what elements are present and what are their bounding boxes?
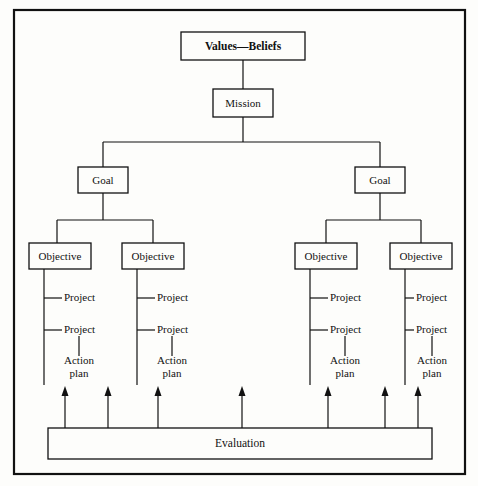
node-values-beliefs[interactable]: Values—Beliefs bbox=[181, 32, 305, 60]
node-objective-4[interactable]: Objective bbox=[390, 243, 452, 269]
branch-4-action-plan-label-line1: Action bbox=[417, 354, 447, 366]
page-border bbox=[14, 10, 465, 474]
diagram-canvas: Values—Beliefs Mission Goal Goal bbox=[0, 0, 478, 486]
strategic-planning-hierarchy-diagram: Values—Beliefs Mission Goal Goal bbox=[0, 0, 478, 486]
objective-3-label: Objective bbox=[305, 250, 348, 262]
objective-1-label: Objective bbox=[39, 250, 82, 262]
branch-3-action-plan-label-line1: Action bbox=[330, 354, 360, 366]
branch-3: Project Project Action plan bbox=[310, 269, 361, 385]
node-goal-2[interactable]: Goal bbox=[355, 167, 405, 193]
feedback-arrow-5 bbox=[325, 386, 332, 428]
branch-2-action-plan-label-line1: Action bbox=[157, 354, 187, 366]
branch-2-project-1-label: Project bbox=[157, 291, 188, 303]
node-objective-2[interactable]: Objective bbox=[122, 243, 184, 269]
feedback-arrow-7 bbox=[415, 386, 422, 428]
goal-2-label: Goal bbox=[369, 174, 390, 186]
feedback-arrow-1 bbox=[62, 386, 69, 428]
objective-4-label: Objective bbox=[400, 250, 443, 262]
objective-2-label: Objective bbox=[132, 250, 175, 262]
branch-1-action-plan-label-line2: plan bbox=[70, 367, 89, 379]
branch-2-project-2-label: Project bbox=[157, 323, 188, 335]
node-goal-1[interactable]: Goal bbox=[78, 167, 128, 193]
branch-4-action-plan-label-line2: plan bbox=[423, 367, 442, 379]
branch-3-action-plan-label-line2: plan bbox=[336, 367, 355, 379]
branch-3-project-1-label: Project bbox=[330, 291, 361, 303]
feedback-arrow-2 bbox=[105, 386, 112, 428]
node-objective-1[interactable]: Objective bbox=[29, 243, 91, 269]
branch-3-project-2-label: Project bbox=[330, 323, 361, 335]
branch-1-action-plan-label-line1: Action bbox=[64, 354, 94, 366]
branch-4-project-2-label: Project bbox=[416, 323, 447, 335]
node-evaluation[interactable]: Evaluation bbox=[48, 428, 432, 459]
mission-label: Mission bbox=[225, 97, 261, 109]
evaluation-label: Evaluation bbox=[215, 437, 265, 449]
branch-1: Project Project Action plan bbox=[44, 269, 95, 385]
feedback-arrow-6 bbox=[382, 386, 389, 428]
feedback-arrow-4 bbox=[239, 386, 246, 428]
feedback-arrows bbox=[62, 386, 422, 428]
values-beliefs-label: Values—Beliefs bbox=[205, 40, 282, 52]
branch-2: Project Project Action plan bbox=[137, 269, 188, 385]
branch-4-project-1-label: Project bbox=[416, 291, 447, 303]
branch-1-project-2-label: Project bbox=[64, 323, 95, 335]
goal-1-label: Goal bbox=[92, 174, 113, 186]
node-mission[interactable]: Mission bbox=[213, 89, 273, 117]
feedback-arrow-3 bbox=[155, 386, 162, 428]
branch-2-action-plan-label-line2: plan bbox=[163, 367, 182, 379]
branch-1-project-1-label: Project bbox=[64, 291, 95, 303]
node-objective-3[interactable]: Objective bbox=[295, 243, 357, 269]
branch-4: Project Project Action plan bbox=[405, 269, 447, 385]
